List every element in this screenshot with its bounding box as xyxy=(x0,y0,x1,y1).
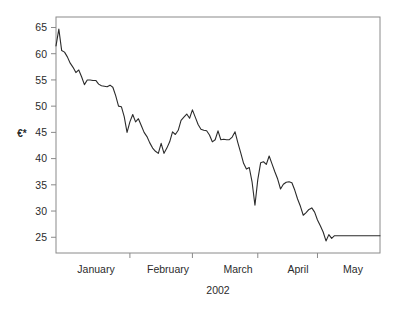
chart-background xyxy=(0,0,399,312)
x-tick-label: May xyxy=(343,263,364,275)
y-tick-label: 30 xyxy=(35,205,47,217)
y-tick-label: 25 xyxy=(35,231,47,243)
y-tick-label: 40 xyxy=(35,152,47,164)
x-tick-label: January xyxy=(77,263,115,275)
y-tick-label: 65 xyxy=(35,21,47,33)
line-chart: 253035404550556065 JanuaryFebruaryMarchA… xyxy=(0,0,399,312)
y-tick-label: 45 xyxy=(35,126,47,138)
x-tick-label: April xyxy=(287,263,308,275)
y-tick-label: 60 xyxy=(35,48,47,60)
x-tick-label: February xyxy=(147,263,190,275)
y-tick-label: 50 xyxy=(35,100,47,112)
y-axis-label: €* xyxy=(17,128,27,139)
y-tick-label: 35 xyxy=(35,179,47,191)
chart-container: 253035404550556065 JanuaryFebruaryMarchA… xyxy=(0,0,399,312)
x-tick-label: March xyxy=(223,263,252,275)
y-axis-tick-labels: 253035404550556065 xyxy=(35,21,47,243)
y-tick-label: 55 xyxy=(35,74,47,86)
x-axis-label: 2002 xyxy=(206,284,230,296)
